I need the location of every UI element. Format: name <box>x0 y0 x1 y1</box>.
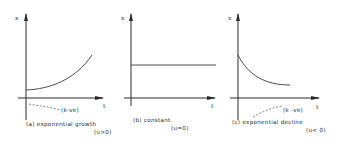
k-annotation: (k-ve) <box>61 107 79 113</box>
x-axis-label: t <box>211 102 214 109</box>
y-axis-label: x <box>15 14 19 21</box>
decline-curve <box>238 55 290 85</box>
panel-condition: (u>0) <box>94 129 112 135</box>
y-axis-label: x <box>228 14 232 21</box>
k-annotation: (k -ve) <box>283 107 303 113</box>
growth-curve <box>26 55 92 90</box>
panel-condition: (u< 0) <box>306 127 326 133</box>
panel-b-constant: x t (b) constant (u=0) <box>121 14 216 131</box>
y-axis-label: x <box>121 14 125 21</box>
panel-caption: (b) constant <box>133 117 171 123</box>
panel-caption: (c) exponential decline <box>232 119 303 126</box>
x-axis-label: t <box>316 103 319 110</box>
panel-caption: (a) exponential growth <box>26 121 96 128</box>
dashed-k-negative-curve <box>253 106 282 117</box>
panel-a-exponential-growth: x t (k-ve) (a) exponential growth (u>0) <box>15 14 112 135</box>
panel-condition: (u=0) <box>171 125 189 131</box>
dashed-k-negative-curve <box>29 104 60 110</box>
panel-c-exponential-decline: x t (k -ve) (c) exponential decline (u< … <box>228 14 326 133</box>
figure-canvas: x t (k-ve) (a) exponential growth (u>0) … <box>0 0 339 145</box>
x-axis-label: t <box>103 102 106 109</box>
